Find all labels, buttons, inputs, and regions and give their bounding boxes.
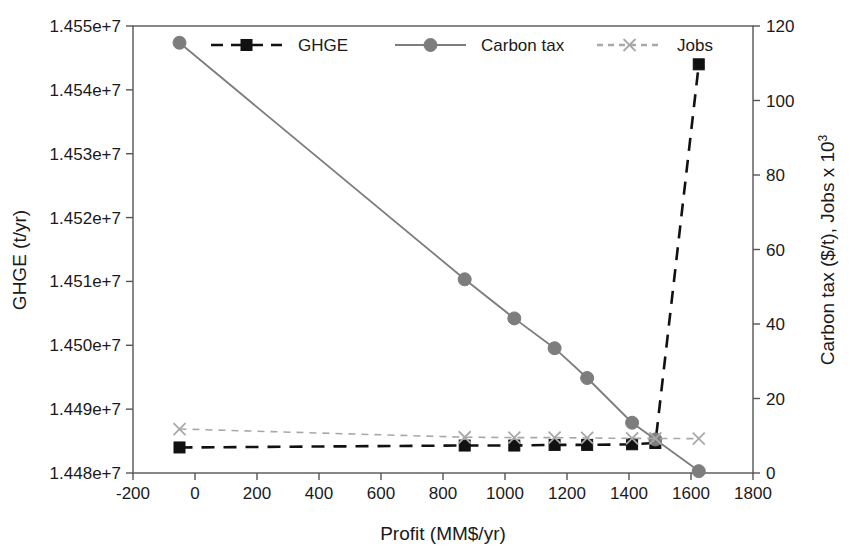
y2-axis-title: Carbon tax ($/t), Jobs x 103 — [816, 134, 838, 365]
legend-label: Carbon tax — [481, 36, 565, 55]
data-point-marker — [692, 465, 705, 478]
svg-text:Carbon tax ($/t), Jobs x 103: Carbon tax ($/t), Jobs x 103 — [816, 134, 838, 365]
data-point-marker — [626, 416, 639, 429]
y2-axis-tick-label: 120 — [766, 17, 794, 36]
legend-label: GHGE — [298, 36, 348, 55]
series-ghge — [174, 59, 704, 453]
chart-legend: GHGECarbon taxJobs — [211, 36, 713, 55]
x-axis-tick-label: -200 — [116, 484, 150, 503]
chart-figure: 1.448e+71.449e+71.450e+71.451e+71.452e+7… — [0, 0, 855, 559]
y2-axis-tick-label: 0 — [766, 464, 775, 483]
series-jobs — [174, 423, 705, 445]
x-axis-ticks: -200020040060080010001200140016001800 — [116, 473, 772, 503]
series-layer — [173, 36, 705, 477]
y2-axis-ticks: 020406080100120 — [753, 17, 794, 483]
legend-marker-sample — [241, 40, 252, 51]
y2-axis-tick-label: 20 — [766, 390, 785, 409]
y-axis-tick-label: 1.451e+7 — [50, 272, 121, 291]
y2-axis-tick-label: 80 — [766, 166, 785, 185]
y-axis-tick-label: 1.453e+7 — [50, 145, 121, 164]
data-point-marker — [458, 273, 471, 286]
legend-entry-jobs[interactable]: Jobs — [597, 36, 713, 55]
x-axis-tick-label: 1000 — [486, 484, 524, 503]
combination-line-chart: 1.448e+71.449e+71.450e+71.451e+71.452e+7… — [0, 0, 855, 559]
x-axis-tick-label: 800 — [429, 484, 457, 503]
data-point-marker — [693, 59, 704, 70]
x-axis-tick-label: 600 — [367, 484, 395, 503]
data-point-marker — [693, 433, 705, 445]
y2-axis-title-text: Carbon tax ($/t), Jobs x 10 — [817, 141, 838, 365]
y2-axis-tick-label: 100 — [766, 92, 794, 111]
y-axis-tick-label: 1.448e+7 — [50, 464, 121, 483]
data-point-marker — [581, 372, 594, 385]
x-axis-tick-label: 1800 — [734, 484, 772, 503]
series-line — [180, 64, 699, 447]
legend-entry-ghge[interactable]: GHGE — [211, 36, 348, 55]
y2-axis-tick-label: 40 — [766, 315, 785, 334]
series-line — [180, 429, 699, 439]
y2-axis-title-superscript: 3 — [816, 134, 830, 141]
data-point-marker — [173, 36, 186, 49]
data-point-marker — [548, 342, 561, 355]
y-axis-tick-label: 1.452e+7 — [50, 209, 121, 228]
x-axis-tick-label: 0 — [190, 484, 199, 503]
y-axis-tick-label: 1.450e+7 — [50, 336, 121, 355]
data-point-marker — [174, 442, 185, 453]
x-axis-title: Profit (MM$/yr) — [380, 523, 506, 544]
y-axis-tick-label: 1.449e+7 — [50, 400, 121, 419]
y-axis-ticks: 1.448e+71.449e+71.450e+71.451e+71.452e+7… — [50, 17, 133, 483]
data-point-marker — [627, 439, 638, 450]
x-axis-tick-label: 1400 — [610, 484, 648, 503]
x-axis-tick-label: 400 — [305, 484, 333, 503]
data-point-marker — [508, 312, 521, 325]
legend-marker-sample — [424, 39, 437, 52]
series-carbon-tax — [173, 36, 705, 477]
x-axis-tick-label: 1600 — [672, 484, 710, 503]
y2-axis-tick-label: 60 — [766, 241, 785, 260]
legend-label: Jobs — [677, 36, 713, 55]
series-line — [180, 43, 699, 471]
legend-entry-carbon-tax[interactable]: Carbon tax — [395, 36, 565, 55]
y-axis-tick-label: 1.454e+7 — [50, 81, 121, 100]
y-axis-title: GHGE (t/yr) — [9, 210, 30, 310]
y-axis-tick-label: 1.455e+7 — [50, 17, 121, 36]
x-axis-tick-label: 200 — [243, 484, 271, 503]
x-axis-tick-label: 1200 — [548, 484, 586, 503]
